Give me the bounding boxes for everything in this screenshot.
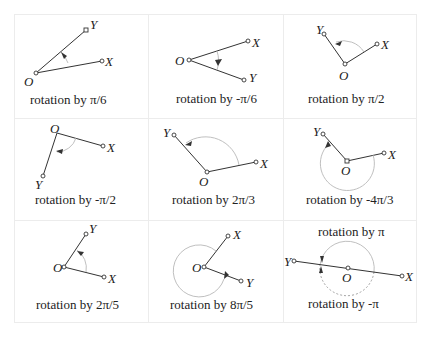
label-o: O [341,163,351,178]
label-x: X [251,35,261,50]
caption: rotation by -π/2 [35,192,116,207]
point-y [239,279,243,283]
label-o: O [342,270,352,285]
label-x: X [104,54,114,69]
caption: rotation by 2π/5 [36,297,119,312]
point-x [254,160,258,164]
panel-rotation-pi-and-minus-pi: Y X O rotation by π rotation by -π [284,224,414,311]
label-o: O [339,68,349,83]
panel-rotation-pi-6: Y X O rotation by π/6 [24,17,114,107]
point-x [375,42,379,46]
label-x: X [232,227,242,242]
point-y [321,132,325,136]
point-o [187,58,191,62]
label-o: O [192,260,202,275]
caption: rotation by π/2 [308,91,385,106]
point-o [34,71,38,75]
point-x [246,39,250,43]
point-x [101,144,105,148]
panel-rotation-minus-pi-2: O X Y rotation by -π/2 [35,121,116,207]
rotation-arrow-icon [77,251,84,256]
label-x: X [259,156,269,171]
label-x: X [380,37,390,52]
label-x: X [106,140,116,155]
rotation-diagram-grid: Y X O rotation by π/6 X Y O rotation by … [0,0,433,338]
point-x [400,274,404,278]
rotation-arrow-icon [215,59,222,66]
rotation-arrow-icon [61,52,67,59]
panel-rotation-minus-pi-6: X Y O rotation by -π/6 [175,35,261,106]
label-o: O [175,53,185,68]
caption: rotation by π/6 [30,92,107,107]
label-y: Y [163,125,172,140]
point-o [202,265,206,269]
point-o [62,265,66,269]
point-x [102,275,106,279]
rotation-arrow-icon [224,271,229,279]
point-x [100,59,104,63]
label-y: Y [249,70,258,85]
caption: rotation by -4π/3 [306,192,393,207]
point-y [172,133,176,137]
panel-rotation-8pi-5: X Y O rotation by 8π/5 [170,227,255,312]
caption: rotation by 2π/3 [172,192,255,207]
label-y: Y [246,275,255,290]
label-o: O [199,174,209,189]
panel-rotation-2pi-5: Y X O rotation by 2π/5 [36,221,119,312]
label-x: X [404,269,414,284]
label-y: Y [313,124,322,139]
label-o: O [50,121,60,136]
rotation-arrow-icon [56,149,63,154]
label-x: X [107,271,117,286]
point-y [84,232,88,236]
caption: rotation by 8π/5 [170,297,253,312]
point-y [242,78,246,82]
panel-rotation-minus-4pi-3: Y X O rotation by -4π/3 [306,124,397,207]
label-o: O [24,74,34,89]
point-y [292,259,296,263]
label-x: X [387,147,397,162]
point-y [84,28,88,32]
point-o [343,62,347,66]
caption-top: rotation by π [318,224,385,239]
panel-rotation-pi-2: Y X O rotation by π/2 [308,22,390,106]
label-o: O [53,260,63,275]
caption: rotation by -π/6 [176,91,257,106]
label-y: Y [89,221,98,236]
caption-bottom: rotation by -π [308,296,379,311]
panel-rotation-2pi-3: Y X O rotation by 2π/3 [163,125,269,207]
label-y: Y [90,17,99,32]
point-x [382,151,386,155]
point-x [226,234,230,238]
label-y: Y [35,177,44,192]
